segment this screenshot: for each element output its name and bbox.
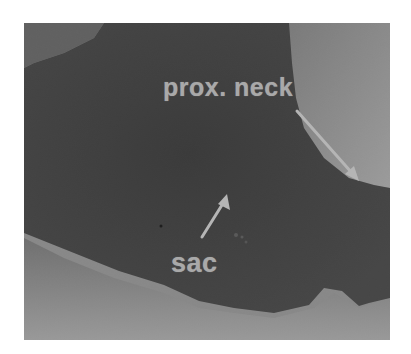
sac-label: sac xyxy=(171,248,218,279)
angiogram-svg xyxy=(24,23,390,340)
medical-image: prox. neck sac xyxy=(24,23,390,340)
grain-overlay xyxy=(24,23,390,340)
prox-neck-label: prox. neck xyxy=(163,73,293,102)
